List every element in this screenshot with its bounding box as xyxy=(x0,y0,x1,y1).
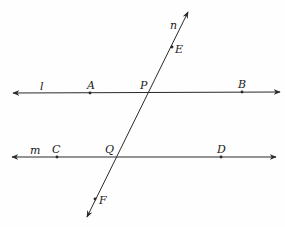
point-label-p: P xyxy=(139,79,148,92)
point-c-dot xyxy=(56,156,59,159)
lines-layer: lmn xyxy=(12,12,280,217)
point-label-d: D xyxy=(216,143,226,156)
point-b-dot xyxy=(241,91,244,94)
line-label-n: n xyxy=(170,19,177,32)
line-label-l: l xyxy=(40,80,44,93)
diagram-svg: lmn ABPCDQEF xyxy=(0,0,285,227)
line-n xyxy=(87,12,188,217)
point-label-b: B xyxy=(237,78,246,91)
point-label-q: Q xyxy=(105,143,114,156)
line-label-m: m xyxy=(30,144,40,157)
parallel-lines-transversal-diagram: lmn ABPCDQEF xyxy=(0,0,285,227)
point-a-dot xyxy=(89,92,92,95)
point-label-c: C xyxy=(52,143,61,156)
point-label-a: A xyxy=(86,79,95,92)
point-e-dot xyxy=(171,46,174,49)
point-label-e: E xyxy=(174,43,183,56)
point-d-dot xyxy=(220,156,223,159)
point-label-f: F xyxy=(98,194,107,207)
point-f-dot xyxy=(94,198,97,201)
line-l xyxy=(13,92,280,93)
points-layer: ABPCDQEF xyxy=(52,43,246,207)
